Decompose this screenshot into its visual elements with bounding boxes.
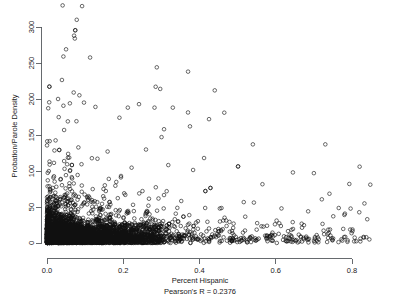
scatter-point xyxy=(162,207,166,211)
scatter-point xyxy=(94,105,98,109)
x-tick-label: 0.0 xyxy=(42,266,52,275)
scatter-point xyxy=(118,116,122,120)
scatter-point xyxy=(312,171,316,175)
scatter-point xyxy=(193,231,197,235)
scatter-point xyxy=(131,203,135,207)
scatter-point xyxy=(56,97,60,101)
scatter-point xyxy=(350,231,354,235)
scatter-point xyxy=(241,231,245,235)
scatter-point xyxy=(337,240,341,244)
scatter-point xyxy=(158,87,162,91)
scatter-point xyxy=(162,193,166,197)
scatter-point xyxy=(358,165,362,169)
scatter-point xyxy=(94,205,98,209)
scatter-point xyxy=(242,236,246,240)
scatter-point xyxy=(80,184,84,188)
x-axis-title: Percent Hispanic xyxy=(172,276,229,285)
scatter-point xyxy=(222,111,226,115)
scatter-point xyxy=(265,224,269,228)
scatter-point xyxy=(353,236,357,240)
scatter-point xyxy=(184,226,188,230)
scatter-point xyxy=(75,18,79,22)
scatter-point xyxy=(307,241,311,245)
scatter-point xyxy=(90,156,94,160)
scatter-point xyxy=(322,229,326,233)
scatter-point xyxy=(53,149,57,153)
scatter-point xyxy=(291,220,295,224)
scatter-point xyxy=(209,186,213,190)
scatter-point xyxy=(57,115,61,119)
scatter-point xyxy=(137,102,141,106)
data-points-layer xyxy=(45,4,372,245)
scatter-point xyxy=(252,201,256,205)
scatter-point xyxy=(114,184,118,188)
scatter-point xyxy=(186,111,190,115)
scatter-point xyxy=(62,104,66,108)
scatter-point xyxy=(203,206,207,210)
scatter-point xyxy=(72,91,76,95)
scatter-point xyxy=(64,48,68,52)
scatter-point xyxy=(46,179,50,183)
scatter-point xyxy=(280,207,284,211)
x-tick-label: 0.8 xyxy=(347,266,357,275)
scatter-point xyxy=(175,229,179,233)
scatter-point xyxy=(205,230,209,234)
scatter-point xyxy=(255,228,259,232)
scatter-point xyxy=(144,148,148,152)
scatter-point xyxy=(186,70,190,74)
scatter-point xyxy=(228,230,232,234)
scatter-point xyxy=(76,173,80,177)
scatter-point xyxy=(68,102,72,106)
scatter-point xyxy=(359,240,363,244)
y-tick-label: 300 xyxy=(27,21,36,34)
scatter-point xyxy=(191,168,195,172)
y-axis: 050100150200250300 xyxy=(27,21,42,245)
scatter-point xyxy=(273,222,277,226)
scatter-point xyxy=(60,183,64,187)
scatter-point xyxy=(107,177,111,181)
x-axis-ticks: 0.00.20.40.60.8 xyxy=(42,259,357,276)
scatter-point xyxy=(255,221,259,225)
scatter-point xyxy=(225,224,229,228)
scatter-point xyxy=(80,190,84,194)
scatter-point xyxy=(133,217,137,221)
scatter-point xyxy=(70,163,74,167)
scatter-point xyxy=(284,235,288,239)
scatter-point xyxy=(173,225,177,229)
scatter-point xyxy=(62,128,66,132)
x-tick-label: 0.4 xyxy=(194,266,204,275)
x-tick-label: 0.6 xyxy=(271,266,281,275)
scatter-point xyxy=(204,189,208,193)
y-tick-label: 200 xyxy=(27,93,36,106)
scatter-point xyxy=(365,217,369,221)
scatter-point xyxy=(337,206,341,210)
scatter-point xyxy=(368,238,372,242)
scatter-point xyxy=(65,162,69,166)
scatter-point xyxy=(279,224,283,228)
y-axis-ticks: 050100150200250300 xyxy=(27,21,42,245)
scatter-point xyxy=(218,220,222,224)
scatter-point xyxy=(60,78,64,82)
scatter-point xyxy=(232,222,236,226)
scatter-point xyxy=(291,171,295,175)
scatter-point xyxy=(173,217,177,221)
scatter-point xyxy=(242,237,246,241)
plot-canvas: 050100150200250300 0.00.20.40.60.8 Proba… xyxy=(0,0,407,303)
scatter-point xyxy=(141,189,145,193)
scatter-point xyxy=(130,166,134,170)
y-tick-label: 100 xyxy=(27,165,36,178)
scatter-point xyxy=(78,93,82,97)
scatter-point xyxy=(154,185,158,189)
scatter-point xyxy=(155,209,159,213)
scatter-point xyxy=(277,232,281,236)
scatter-point xyxy=(162,127,166,131)
scatter-point xyxy=(171,106,175,110)
scatter-point xyxy=(160,135,164,139)
scatter-point xyxy=(103,184,107,188)
scatter-point xyxy=(348,182,352,186)
y-tick-label: 0 xyxy=(27,241,36,245)
scatter-point xyxy=(325,240,329,244)
scatter-point xyxy=(91,187,95,191)
scatter-point xyxy=(66,152,70,156)
scatter-point xyxy=(222,235,226,239)
